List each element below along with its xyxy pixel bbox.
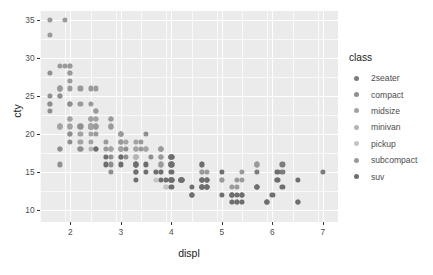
legend-item[interactable]: 2seater bbox=[349, 70, 433, 86]
legend-item[interactable]: suv bbox=[349, 168, 433, 184]
data-point bbox=[93, 116, 98, 121]
legend-item-label: pickup bbox=[371, 139, 396, 149]
data-point bbox=[58, 147, 63, 152]
data-point bbox=[68, 86, 73, 91]
data-point bbox=[138, 139, 143, 144]
data-point bbox=[48, 93, 53, 98]
gridline-y-minor bbox=[40, 191, 338, 192]
data-point bbox=[229, 192, 234, 197]
gridline-y bbox=[40, 210, 338, 211]
data-point bbox=[270, 192, 275, 197]
data-point bbox=[78, 131, 83, 136]
data-point bbox=[143, 131, 148, 136]
data-point bbox=[234, 192, 239, 197]
legend-item[interactable]: subcompact bbox=[349, 152, 433, 168]
data-point bbox=[103, 147, 108, 152]
gridline-y-minor bbox=[40, 153, 338, 154]
data-point bbox=[133, 154, 138, 159]
data-point bbox=[239, 192, 244, 197]
y-tick bbox=[37, 58, 40, 59]
data-point bbox=[133, 162, 138, 167]
data-point bbox=[88, 101, 93, 106]
data-point bbox=[93, 86, 98, 91]
data-point bbox=[169, 177, 174, 182]
x-axis-title: displ bbox=[40, 247, 338, 259]
data-point bbox=[234, 184, 239, 189]
data-point bbox=[103, 139, 108, 144]
data-point bbox=[280, 162, 285, 167]
x-tick bbox=[323, 222, 324, 225]
chart-root: 101520253035 234567 displ cty class 2sea… bbox=[0, 0, 433, 275]
data-point bbox=[93, 147, 98, 152]
data-point bbox=[68, 71, 73, 76]
legend-item[interactable]: compact bbox=[349, 86, 433, 102]
x-tick-label: 4 bbox=[169, 227, 174, 237]
data-point bbox=[154, 169, 159, 174]
data-point bbox=[133, 169, 138, 174]
data-point bbox=[143, 162, 148, 167]
data-point bbox=[295, 177, 300, 182]
legend-item-label: 2seater bbox=[371, 73, 400, 83]
data-point bbox=[204, 184, 209, 189]
data-point bbox=[169, 162, 174, 167]
legend-key-icon bbox=[349, 71, 364, 86]
data-point bbox=[295, 200, 300, 205]
data-point bbox=[48, 109, 53, 114]
data-point bbox=[68, 139, 73, 144]
legend-item[interactable]: midsize bbox=[349, 103, 433, 119]
data-point bbox=[280, 169, 285, 174]
data-point bbox=[68, 131, 73, 136]
data-point bbox=[118, 162, 123, 167]
data-point bbox=[78, 101, 83, 106]
data-point bbox=[108, 154, 113, 159]
y-tick-label: 10 bbox=[25, 205, 34, 215]
data-point bbox=[68, 63, 73, 68]
data-point bbox=[159, 147, 164, 152]
legend-key-icon bbox=[349, 103, 364, 118]
data-point bbox=[63, 18, 68, 23]
data-point bbox=[108, 169, 113, 174]
x-tick bbox=[121, 222, 122, 225]
legend-item-label: suv bbox=[371, 172, 384, 182]
legend-item[interactable]: pickup bbox=[349, 136, 433, 152]
legend-item-label: subcompact bbox=[371, 155, 417, 165]
legend-title: class bbox=[349, 52, 433, 63]
y-tick bbox=[37, 172, 40, 173]
y-tick-label: 15 bbox=[25, 167, 34, 177]
data-point bbox=[58, 86, 63, 91]
data-point bbox=[255, 162, 260, 167]
data-point bbox=[78, 147, 83, 152]
legend: class 2seatercompactmidsizeminivanpickup… bbox=[349, 52, 433, 185]
data-point bbox=[103, 162, 108, 167]
data-point bbox=[78, 86, 83, 91]
data-point bbox=[204, 177, 209, 182]
data-point bbox=[143, 147, 148, 152]
data-point bbox=[48, 33, 53, 38]
data-point bbox=[68, 78, 73, 83]
data-point bbox=[275, 169, 280, 174]
data-point bbox=[108, 147, 113, 152]
y-axis-title: cty bbox=[11, 81, 23, 141]
data-point bbox=[239, 177, 244, 182]
gridline-y-minor bbox=[40, 77, 338, 78]
data-point bbox=[159, 162, 164, 167]
data-point bbox=[58, 162, 63, 167]
y-tick-label: 35 bbox=[25, 15, 34, 25]
data-point bbox=[255, 184, 260, 189]
data-point bbox=[88, 139, 93, 144]
data-point bbox=[280, 184, 285, 189]
legend-item[interactable]: minivan bbox=[349, 119, 433, 135]
data-point bbox=[123, 147, 128, 152]
data-point bbox=[239, 169, 244, 174]
data-point bbox=[108, 162, 113, 167]
data-point bbox=[118, 131, 123, 136]
legend-item-label: minivan bbox=[371, 122, 401, 132]
gridline-y-minor bbox=[40, 39, 338, 40]
gridline-y bbox=[40, 172, 338, 173]
data-point bbox=[159, 169, 164, 174]
data-point bbox=[159, 154, 164, 159]
data-point bbox=[275, 177, 280, 182]
gridline-y bbox=[40, 58, 338, 59]
data-point bbox=[179, 177, 184, 182]
data-point bbox=[68, 101, 73, 106]
